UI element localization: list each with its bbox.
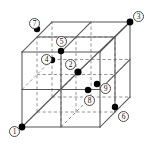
node-dot-3 (127, 19, 134, 26)
cube-wireframe-svg (0, 0, 155, 144)
node-label-8: 8 (84, 95, 95, 106)
node-label-7: 7 (29, 18, 40, 29)
node-label-4: 4 (41, 54, 52, 65)
node-dot-5 (58, 48, 64, 54)
node-label-3: 3 (133, 11, 144, 22)
cube-diagram-figure: 1 2 3 4 5 6 7 8 9 (0, 0, 155, 144)
node-label-2: 2 (65, 59, 76, 70)
node-label-1: 1 (9, 126, 20, 137)
node-dot-6 (112, 104, 118, 110)
path-segment-2-3 (78, 22, 130, 72)
node-label-5: 5 (56, 36, 67, 47)
node-label-9: 9 (100, 83, 111, 94)
node-dot-8 (85, 87, 91, 93)
node-label-6: 6 (118, 111, 129, 122)
node-dot-2 (74, 68, 81, 75)
